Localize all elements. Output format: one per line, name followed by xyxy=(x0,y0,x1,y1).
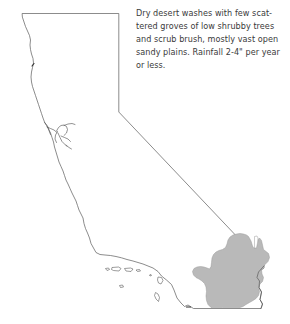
caption-line-3: and scrub brush, mostly vast open xyxy=(136,33,286,46)
caption-line-1: Dry desert washes with few scat- xyxy=(136,7,286,20)
caption-line-4: sandy plains. Rainfall 2-4" per year xyxy=(136,46,286,59)
caption-line-2: tered groves of low shrubby trees xyxy=(136,20,286,33)
california-desert-figure: Dry desert washes with few scat- tered g… xyxy=(0,0,290,324)
channel-islands-group xyxy=(106,267,164,302)
caption-text-block: Dry desert washes with few scat- tered g… xyxy=(136,7,286,72)
caption-line-5: or less. xyxy=(136,59,286,72)
